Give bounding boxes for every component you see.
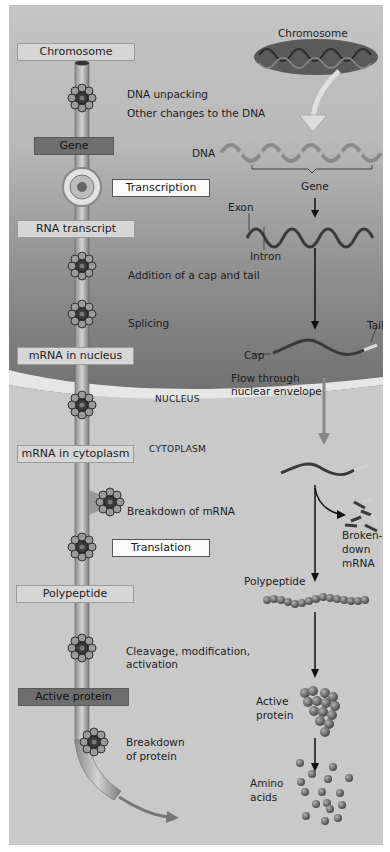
label-broken-1: Broken- bbox=[342, 529, 382, 542]
label-flow-1: Flow through bbox=[231, 372, 300, 385]
box-transcription: Transcription bbox=[112, 179, 210, 197]
box-gene: Gene bbox=[34, 137, 114, 155]
box-mrna-nucleus: mRNA in nucleus bbox=[17, 347, 134, 365]
step-of-protein: of protein bbox=[126, 750, 177, 763]
label-amino-2: acids bbox=[250, 791, 277, 804]
box-rna-transcript: RNA transcript bbox=[17, 220, 135, 238]
step-protein-breakdown: Breakdown bbox=[126, 736, 185, 749]
label-active-1: Active bbox=[256, 695, 288, 708]
region-nucleus: NUCLEUS bbox=[155, 393, 200, 406]
box-translation: Translation bbox=[112, 539, 210, 557]
step-activation: activation bbox=[126, 658, 178, 671]
step-cap-tail: Addition of a cap and tail bbox=[128, 269, 260, 282]
chromosome-graphic bbox=[254, 39, 378, 75]
label-broken-2: down bbox=[342, 543, 370, 556]
label-tail: Tail bbox=[367, 319, 383, 332]
box-active-protein: Active protein bbox=[18, 688, 129, 706]
dna-helix bbox=[221, 145, 381, 161]
box-mrna-cytoplasm: mRNA in cytoplasm bbox=[17, 445, 134, 463]
label-exon: Exon bbox=[228, 201, 254, 214]
step-dna-unpacking: DNA unpacking bbox=[127, 88, 208, 101]
label-gene: Gene bbox=[301, 180, 329, 193]
label-chromosome: Chromosome bbox=[278, 27, 348, 40]
label-broken-3: mRNA bbox=[342, 557, 375, 570]
label-flow-2: nuclear envelope bbox=[231, 385, 322, 398]
step-cleavage: Cleavage, modification, bbox=[126, 645, 250, 658]
label-polypeptide: Polypeptide bbox=[244, 575, 305, 588]
label-intron: Intron bbox=[250, 250, 281, 263]
step-other-dna-changes: Other changes to the DNA bbox=[127, 107, 265, 120]
step-splicing: Splicing bbox=[128, 317, 169, 330]
label-amino-1: Amino bbox=[250, 777, 283, 790]
label-dna: DNA bbox=[192, 147, 215, 160]
diagram-panel: Chromosome Gene RNA transcript mRNA in n… bbox=[9, 5, 383, 845]
label-active-2: protein bbox=[256, 709, 293, 722]
label-cap: Cap bbox=[244, 349, 264, 362]
region-cytoplasm: CYTOPLASM bbox=[149, 443, 206, 456]
step-mrna-breakdown: Breakdown of mRNA bbox=[127, 505, 235, 518]
diagram-graphics bbox=[9, 5, 383, 845]
box-polypeptide: Polypeptide bbox=[16, 585, 134, 603]
box-chromosome: Chromosome bbox=[17, 43, 135, 61]
